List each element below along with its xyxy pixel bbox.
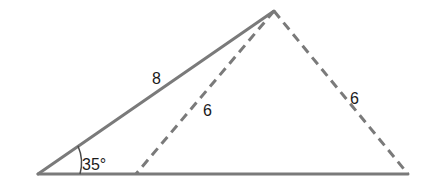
label-side-ab: 8 [152, 70, 161, 87]
side-bc2-dashed [274, 11, 408, 174]
triangle-diagram: 8 6 6 35° [0, 0, 426, 193]
label-side-bc2: 6 [350, 90, 359, 107]
label-side-bc1: 6 [203, 102, 212, 119]
angle-arc-a [78, 146, 82, 174]
label-angle-a: 35° [82, 156, 106, 173]
